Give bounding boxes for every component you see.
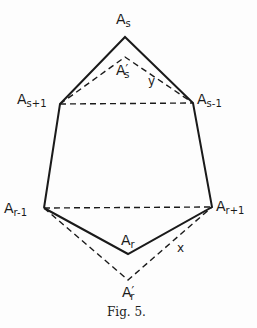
variable-y: y (148, 75, 155, 87)
label-base: A (116, 11, 126, 27)
dashed-upper-chord (60, 103, 193, 104)
label-A-s-plus-1: As+1 (17, 92, 47, 109)
dashed-lower-chord (44, 207, 212, 208)
polygon-figure: As A′s y As+1 As-1 Ar-1 Ar+1 Ar x A′r Fi… (0, 0, 257, 328)
label-base: A (121, 232, 131, 248)
label-sub: r (131, 239, 135, 250)
label-sub: r-1 (14, 207, 27, 218)
label-sub: s (126, 18, 131, 29)
label-base: A (216, 198, 226, 214)
figure-lines (0, 0, 257, 328)
label-prime: ′ (132, 284, 135, 298)
label-sub: s-1 (207, 98, 222, 109)
label-A-s-minus-1: As-1 (197, 92, 222, 109)
label-A-s-prime: A′s (116, 63, 130, 80)
label-sub: r+1 (226, 205, 245, 216)
label-A-s: As (116, 12, 131, 29)
figure-caption: Fig. 5. (107, 306, 146, 318)
label-base: A (17, 91, 27, 107)
label-A-r-minus-1: Ar-1 (4, 201, 27, 218)
label-base: A (4, 200, 14, 216)
label-base: A (197, 91, 207, 107)
label-A-r: Ar (121, 233, 135, 250)
label-A-r-plus-1: Ar+1 (216, 199, 244, 216)
label-A-r-prime: A′r (122, 285, 134, 302)
variable-x: x (177, 242, 184, 254)
label-sub: s+1 (27, 98, 47, 109)
label-prime: ′ (126, 62, 129, 76)
